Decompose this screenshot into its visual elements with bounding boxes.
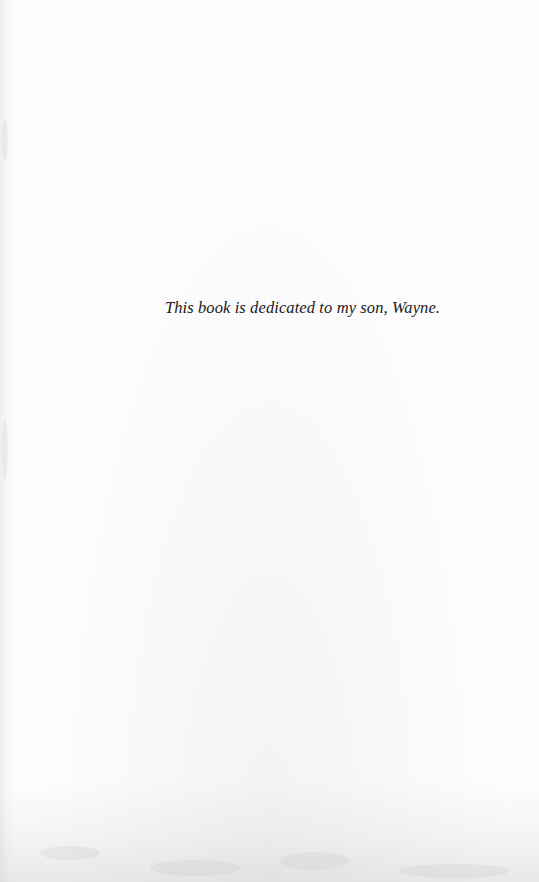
scan-speckle: [2, 420, 8, 480]
scan-speckle: [400, 864, 510, 878]
book-page: This book is dedicated to my son, Wayne.: [0, 0, 539, 882]
scan-speckle: [280, 852, 350, 870]
scan-speckle: [40, 846, 100, 860]
dedication-text: This book is dedicated to my son, Wayne.: [0, 298, 539, 318]
scan-speckle: [150, 860, 240, 876]
scan-speckle: [2, 120, 8, 160]
